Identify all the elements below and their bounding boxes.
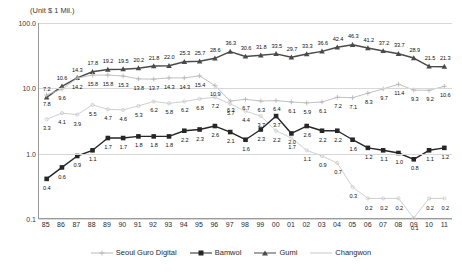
data-label: 2.0	[288, 139, 295, 145]
data-point-marker	[243, 97, 248, 102]
data-label: 0.3	[350, 193, 357, 199]
y-axis-tick: 1.0	[26, 150, 36, 157]
data-label: 15.8	[87, 81, 98, 87]
data-label: 6.2	[181, 107, 188, 113]
data-label: 21.8	[149, 55, 160, 61]
x-axis-labels: 8586878889909192939495969798990001020304…	[38, 221, 452, 233]
data-point-marker	[258, 99, 263, 104]
data-label: 10.6	[440, 92, 451, 98]
data-label: 36.3	[225, 40, 236, 46]
data-point-marker	[228, 130, 233, 135]
data-label: 2.2	[181, 137, 188, 143]
data-label: 5.3	[135, 112, 142, 118]
data-label: 0.2	[396, 205, 403, 211]
data-label: 1.1	[380, 156, 387, 162]
data-label: 0.9	[319, 162, 326, 168]
data-label: 33.7	[394, 42, 405, 48]
data-label: 36.6	[317, 40, 328, 46]
y-axis-tick: 100.0	[18, 20, 36, 27]
data-label: 10.9	[210, 91, 221, 97]
data-label: 6.7	[242, 105, 249, 111]
x-axis-tick: 06	[364, 221, 372, 228]
data-point-marker	[197, 73, 202, 78]
data-point-marker	[121, 136, 126, 141]
data-point-marker	[136, 77, 141, 82]
x-axis-tick: 10	[425, 221, 433, 228]
data-label: 15.3	[118, 82, 129, 88]
data-label: 0.2	[365, 205, 372, 211]
data-label: 1.1	[426, 156, 433, 162]
legend-label: Gumi	[279, 248, 297, 257]
plot-area: 100.010.01.00.17.210.614.317.819.219.520…	[38, 23, 452, 219]
x-axis-tick: 88	[88, 221, 96, 228]
data-point-marker	[304, 101, 309, 106]
gridline	[39, 23, 452, 24]
data-label: 28.6	[210, 47, 221, 53]
data-label: 6.8	[196, 105, 203, 111]
data-label: 1.8	[166, 142, 173, 148]
x-axis-tick: 90	[118, 221, 126, 228]
data-point-marker	[365, 91, 370, 96]
data-label: 0.9	[74, 162, 81, 168]
x-axis-tick: 85	[42, 221, 50, 228]
data-point-marker	[151, 134, 156, 139]
data-label: 15.4	[195, 82, 206, 88]
data-point-marker	[289, 131, 294, 136]
legend-marker-icon	[91, 248, 113, 257]
data-label: 3.3	[43, 125, 50, 131]
data-label: 14.3	[164, 84, 175, 90]
data-point-marker	[167, 134, 172, 139]
chart-legend: Seoul Guro DigitalBamwolGumiChangwon	[0, 248, 462, 257]
x-axis-tick: 03	[318, 221, 326, 228]
data-label: 1.0	[396, 159, 403, 165]
data-label: 2.2	[273, 137, 280, 143]
legend-label: Changwon	[335, 248, 371, 257]
data-point-marker	[366, 146, 371, 151]
data-point-marker	[396, 82, 401, 87]
data-label: 19.2	[103, 58, 114, 64]
data-label: 7.2	[212, 103, 219, 109]
x-axis-tick: 95	[195, 221, 203, 228]
data-point-marker	[60, 165, 65, 170]
data-label: 7.2	[334, 103, 341, 109]
data-label: 4.6	[120, 116, 127, 122]
data-label: 3.7	[258, 122, 265, 128]
data-label: 13.8	[133, 85, 144, 91]
legend-item-bamwol[interactable]: Bamwol	[190, 248, 242, 257]
data-label: 6.2	[150, 107, 157, 113]
data-point-marker	[105, 73, 110, 78]
data-label: 4.7	[104, 115, 111, 121]
data-label: 5.9	[304, 109, 311, 115]
data-label: 5.5	[89, 111, 96, 117]
unit-annotation: (Unit $ 1 Mil.)	[30, 6, 75, 15]
data-point-marker	[182, 76, 187, 81]
legend-item-changwon[interactable]: Changwon	[310, 248, 371, 257]
data-label: 1.2	[442, 154, 449, 160]
data-point-marker	[151, 77, 156, 82]
data-label: 3.7	[273, 122, 280, 128]
data-point-marker	[243, 137, 248, 142]
data-label: 20.2	[133, 57, 144, 63]
data-label: 7.1	[350, 104, 357, 110]
data-label: 9.6	[58, 95, 65, 101]
x-axis-tick: 93	[164, 221, 172, 228]
x-axis-tick: 98	[241, 221, 249, 228]
data-label: 41.2	[363, 37, 374, 43]
data-label: 31.8	[256, 44, 267, 50]
data-label: 0.7	[334, 169, 341, 175]
data-point-marker	[320, 128, 325, 133]
legend-item-gumi[interactable]: Gumi	[254, 248, 297, 257]
data-label: 1.2	[365, 154, 372, 160]
data-label: 25.3	[179, 50, 190, 56]
data-label: 0.2	[442, 205, 449, 211]
data-label: 6.1	[319, 108, 326, 114]
x-axis-tick: 11	[441, 221, 448, 228]
x-axis-tick: 86	[57, 221, 65, 228]
legend-item-seoul[interactable]: Seoul Guro Digital	[91, 248, 177, 257]
x-axis-tick: 04	[333, 221, 341, 228]
data-label: 1.6	[242, 146, 249, 152]
data-label: 21.5	[425, 55, 436, 61]
gridline	[39, 219, 452, 220]
data-label: 4.4	[242, 117, 249, 123]
data-label: 2.6	[212, 132, 219, 138]
